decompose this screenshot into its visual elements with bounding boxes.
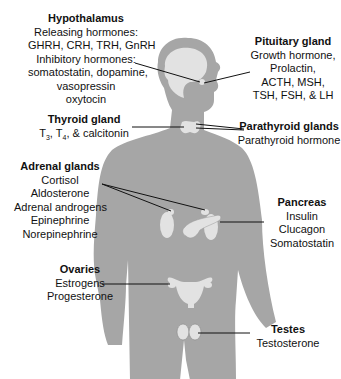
testes-label: Testes Testosterone <box>248 323 328 350</box>
right-testis <box>189 324 201 340</box>
pancreas-label: Pancreas Insulin Clucagon Somatostatin <box>264 196 340 250</box>
left-ovary <box>168 282 176 288</box>
adrenal-label: Adrenal glands Cortisol Aldosterone Adre… <box>14 160 106 241</box>
pituitary-label: Pituitary gland Growth hormone, Prolacti… <box>246 35 340 103</box>
hypothalamus-label: Hypothalamus Releasing hormones: GHRH, C… <box>28 12 144 107</box>
parathyroid-label: Parathyroid glands Parathyroid hormone <box>237 120 341 147</box>
right-ovary <box>204 282 212 288</box>
thyroid-label: Thyroid gland T3, T4, & calcitonin <box>36 113 132 144</box>
left-kidney <box>160 212 174 238</box>
left-testis <box>177 324 189 340</box>
ovaries-label: Ovaries Estrogens Progesterone <box>44 263 116 304</box>
